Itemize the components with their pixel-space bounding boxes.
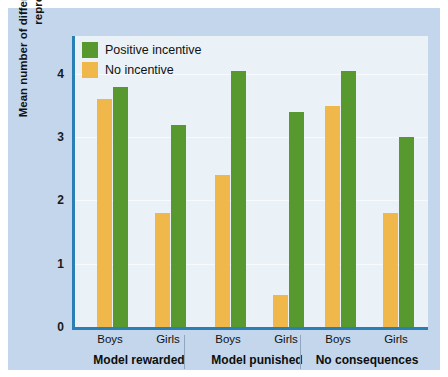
plot-area [72,36,428,330]
top-white-strip [0,0,448,8]
x-group-separator [300,335,301,369]
bar-model-rewarded-girls-positive-incentive [171,125,186,327]
bars-layer [75,36,428,327]
y-tick-label: 3 [34,130,64,144]
x-tick-label-no-consequences-girls: Girls [384,333,408,345]
x-tick-label-no-consequences-boys: Boys [325,333,351,345]
chart-legend: Positive incentive No incentive [82,42,202,78]
y-tick-label: 1 [34,257,64,271]
y-tick-label: 4 [34,67,64,81]
legend-label-no-incentive: No incentive [105,63,174,77]
legend-swatch-green-icon [82,42,98,58]
bar-model-punished-boys-no-incentive [215,175,230,327]
bar-no-consequences-girls-positive-incentive [399,137,414,327]
y-tick-label: 2 [34,193,64,207]
x-tick-label-model-punished-girls: Girls [274,333,298,345]
x-tick-label-model-punished-boys: Boys [215,333,241,345]
bar-model-punished-girls-no-incentive [273,295,288,327]
legend-item-no-incentive: No incentive [82,62,202,78]
bar-model-rewarded-boys-no-incentive [97,99,112,327]
x-group-label-model-rewarded: Model rewarded [93,353,184,367]
x-group-separator [184,335,185,369]
x-tick-label-model-rewarded-boys: Boys [97,333,123,345]
legend-item-positive-incentive: Positive incentive [82,42,202,58]
bar-no-consequences-boys-no-incentive [325,106,340,327]
chart-panel: Mean number of different imitative respo… [8,8,440,370]
bar-model-rewarded-girls-no-incentive [155,213,170,327]
bar-no-consequences-boys-positive-incentive [341,71,356,327]
bar-model-punished-girls-positive-incentive [289,112,304,327]
legend-swatch-orange-icon [82,62,98,78]
bar-model-punished-boys-positive-incentive [231,71,246,327]
plot-inner [75,36,428,327]
x-group-label-no-consequences: No consequences [316,353,419,367]
legend-label-positive-incentive: Positive incentive [105,43,202,57]
y-axis-title: Mean number of different imitative respo… [16,0,46,118]
bar-model-rewarded-boys-positive-incentive [113,87,128,327]
chart-figure: Mean number of different imitative respo… [0,0,448,377]
y-tick-label: 0 [34,320,64,334]
x-tick-label-model-rewarded-girls: Girls [156,333,180,345]
x-axis: BoysGirlsModel rewardedBoysGirlsModel pu… [72,333,428,377]
x-group-label-model-punished: Model punished [211,353,302,367]
bar-no-consequences-girls-no-incentive [383,213,398,327]
